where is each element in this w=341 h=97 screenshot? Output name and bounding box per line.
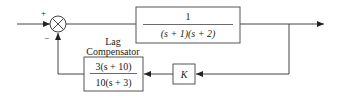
feedback-path-to-junction — [58, 33, 84, 74]
plus-sign: + — [41, 8, 46, 18]
plant-denominator: (s + 1)(s + 2) — [161, 28, 216, 40]
minus-sign: − — [44, 33, 49, 43]
block-diagram: + − 1 (s + 1)(s + 2) K Lag Compensator 3… — [0, 0, 341, 97]
compensator-denominator: 10(s + 3) — [95, 77, 131, 89]
plant-numerator: 1 — [186, 11, 191, 22]
summing-junction — [50, 16, 66, 32]
compensator-numerator: 3(s + 10) — [95, 61, 131, 73]
gain-label: K — [180, 69, 189, 80]
compensator-title-line2: Compensator — [86, 46, 140, 57]
